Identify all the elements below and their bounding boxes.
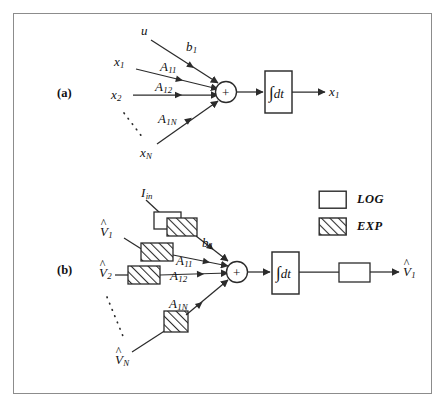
label-gain-A11-a: A11 bbox=[160, 60, 176, 75]
summer-operator-a: + bbox=[222, 85, 229, 101]
legend-swatches bbox=[318, 190, 350, 240]
legend-label-exp: EXP bbox=[357, 219, 383, 234]
exp-block-bias bbox=[167, 218, 197, 236]
label-output-x1: x1 bbox=[329, 85, 340, 100]
figure-root: (a) (b) u b1 x1 A11 x2 A12 xN A1N + ∫dt … bbox=[0, 0, 448, 410]
legend-label-log: LOG bbox=[357, 192, 384, 207]
panel-label-b: (b) bbox=[57, 263, 72, 278]
integrator-label-a: ∫dt bbox=[269, 83, 284, 103]
arrowhead-A12-b bbox=[197, 271, 204, 278]
label-gain-A12-b: A12 bbox=[170, 269, 187, 284]
arrowhead-A12 bbox=[175, 92, 182, 99]
legend-swatch-log bbox=[319, 191, 346, 208]
arrowhead-A11 bbox=[175, 76, 184, 84]
panel-label-a: (a) bbox=[57, 86, 72, 101]
label-gain-A12-a: A12 bbox=[155, 80, 172, 95]
label-input-V2hat: ^V2 bbox=[99, 266, 112, 281]
exp-block-VN bbox=[164, 311, 188, 332]
label-input-Iin: Iin bbox=[141, 186, 153, 201]
label-gain-b1-a: b1 bbox=[186, 40, 197, 55]
exp-block-V1 bbox=[141, 243, 173, 261]
legend-swatch-exp bbox=[319, 218, 346, 235]
label-gain-A1N-b: A1N bbox=[169, 297, 188, 312]
label-input-VNhat: ^VN bbox=[115, 353, 129, 368]
integrator-label-b: ∫dt bbox=[276, 263, 291, 283]
label-input-x1: x1 bbox=[114, 55, 125, 70]
ellipsis-dots-b bbox=[107, 297, 125, 341]
label-input-u: u bbox=[141, 24, 148, 37]
label-input-x2: x2 bbox=[111, 88, 122, 103]
edge-VN-to-summer bbox=[186, 280, 228, 315]
label-gain-b1-b: b1 bbox=[202, 236, 213, 251]
exp-block-V2 bbox=[128, 266, 160, 284]
label-gain-A1N-a: A1N bbox=[158, 112, 177, 127]
arrowhead-b1 bbox=[186, 61, 196, 70]
summer-operator-b: + bbox=[233, 265, 240, 281]
label-gain-A11-b: A11 bbox=[176, 254, 192, 269]
log-block-output bbox=[339, 263, 370, 282]
ellipsis-dots-a bbox=[124, 113, 143, 138]
edge-VN-lower bbox=[132, 330, 166, 352]
edge-Iin-to-log bbox=[146, 200, 160, 213]
label-input-xN: xN bbox=[140, 146, 152, 161]
edge-V1-to-exp bbox=[124, 238, 143, 250]
label-output-V1hat: ^V1 bbox=[403, 265, 416, 280]
panel-b-diagram bbox=[107, 200, 399, 352]
label-input-V1hat: ^V1 bbox=[100, 225, 113, 240]
